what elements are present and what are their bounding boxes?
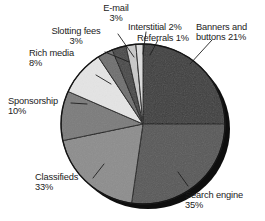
leader-line-banners [190,40,212,64]
slice-label-sponsorship-value: 10% [8,106,58,116]
slice-label-classifieds-name: Classifieds [35,172,78,182]
slice-label-slotting-fees-name: Slotting fees [51,26,100,36]
slice-label-slotting-fees: Slotting fees 3% [44,26,108,47]
slice-label-rich-media: Rich media 8% [29,48,74,69]
slice-label-referrals-name: Referrals 1% [137,33,189,43]
slice-label-rich-media-value: 8% [29,58,74,68]
slice-label-interstitial: Interstitial 2% [128,22,182,32]
slice-label-slotting-fees-value: 3% [44,36,108,46]
slice-label-search-engine-value: 35% [185,200,243,210]
slice-label-banners-and-buttons-name: Banners and [196,22,247,32]
slice-label-classifieds: Classifieds 33% [35,172,78,193]
slice-label-sponsorship: Sponsorship 10% [8,96,58,117]
slice-label-sponsorship-name: Sponsorship [8,96,58,106]
slice-label-search-engine-name: Search engine [185,190,243,200]
pie-slices-group: Banners and buttons 21%Search engine 35%… [61,44,225,204]
slice-label-email-name: E-mail [103,3,128,13]
slice-label-referrals: Referrals 1% [137,33,189,43]
slice-label-search-engine: Search engine 35% [185,190,243,211]
slice-label-banners-and-buttons: Banners and buttons 21% [196,22,247,43]
slice-label-rich-media-name: Rich media [29,48,74,58]
pie-chart-figure: Banners and buttons 21%Search engine 35%… [0,0,265,221]
slice-label-classifieds-value: 33% [35,182,78,192]
slice-label-email: E-mail 3% [93,3,139,24]
slice-label-banners-and-buttons-value: buttons 21% [196,32,247,42]
slice-label-interstitial-name: Interstitial 2% [128,22,182,32]
pie-slice-banners-and-buttons: Banners and buttons 21% [143,44,225,124]
